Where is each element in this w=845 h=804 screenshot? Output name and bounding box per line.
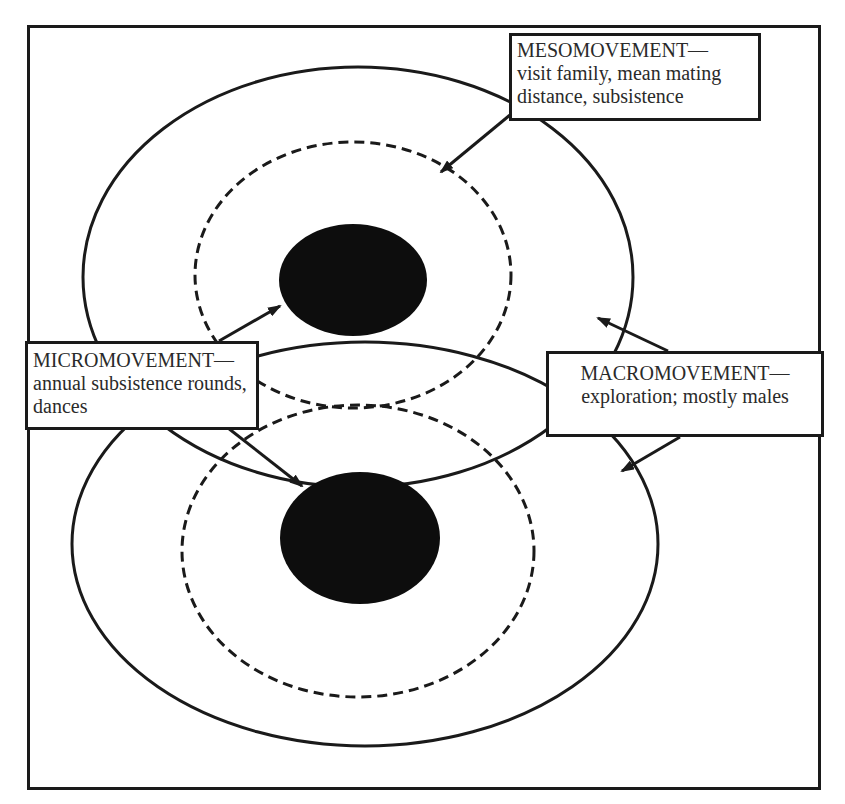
- lower-core: [280, 472, 440, 604]
- micromovement-label: MICROMOVEMENT— annual subsistence rounds…: [25, 341, 259, 430]
- macromovement-desc-line1: exploration; mostly males: [559, 385, 811, 408]
- upper-core: [279, 224, 427, 336]
- mesomovement-label: MESOMOVEMENT— visit family, mean mating …: [509, 33, 761, 121]
- micromovement-title: MICROMOVEMENT—: [33, 349, 252, 372]
- macromovement-title: MACROMOVEMENT—: [559, 362, 811, 385]
- macromovement-label: MACROMOVEMENT— exploration; mostly males: [546, 351, 824, 437]
- meso-arrow: [441, 115, 510, 172]
- macro-arrow-up: [598, 318, 668, 351]
- mesomovement-desc-line2: distance, subsistence: [517, 85, 754, 108]
- micromovement-desc-line2: dances: [33, 395, 252, 418]
- macro-arrow-down: [622, 437, 680, 471]
- mesomovement-title: MESOMOVEMENT—: [517, 39, 754, 62]
- micro-arrow-down: [228, 428, 302, 486]
- mesomovement-desc-line1: visit family, mean mating: [517, 62, 754, 85]
- micromovement-desc-line1: annual subsistence rounds,: [33, 372, 252, 395]
- micro-arrow-up: [219, 306, 280, 341]
